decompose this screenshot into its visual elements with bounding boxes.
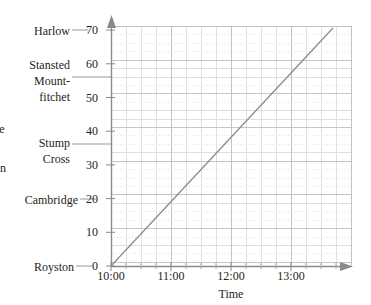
y-axis-title-fragment-distance: ce <box>0 123 5 135</box>
y-tick-label-10: 10 <box>74 226 98 238</box>
plot-area <box>111 26 352 266</box>
station-label-stansted-line3: fitchet <box>0 89 70 105</box>
station-label-royston: Royston <box>0 260 74 274</box>
x-tick-label-1300: 13:00 <box>261 270 321 282</box>
y-tick-label-40: 40 <box>74 125 98 137</box>
x-axis-title: Time <box>171 287 291 302</box>
chart-canvas: 0 10 20 30 40 50 60 70 10:00 11:00 12:00… <box>0 0 371 305</box>
y-tick-label-60: 60 <box>74 58 98 70</box>
x-tick-label-1200: 12:00 <box>201 270 261 282</box>
station-label-stump-cross-line2: Cross <box>0 151 70 167</box>
station-label-stansted-line2: Mount- <box>0 73 70 89</box>
y-tick-label-70: 70 <box>74 24 98 36</box>
station-label-cambridge: Cambridge <box>0 193 78 207</box>
station-label-stansted: Stansted Mount- fitchet <box>0 57 70 105</box>
y-tick-label-50: 50 <box>74 92 98 104</box>
x-tick-label-1100: 11:00 <box>141 270 201 282</box>
y-axis-title-fragment-station: on <box>0 162 6 174</box>
station-label-harlow: Harlow <box>0 24 70 38</box>
station-label-stump-cross-line1: Stump <box>0 135 70 151</box>
y-tick-label-30: 30 <box>74 159 98 171</box>
grid-major <box>111 26 352 266</box>
station-label-stump-cross: Stump Cross <box>0 135 70 167</box>
x-tick-label-1000: 10:00 <box>81 270 141 282</box>
station-label-stansted-line1: Stansted <box>0 57 70 73</box>
